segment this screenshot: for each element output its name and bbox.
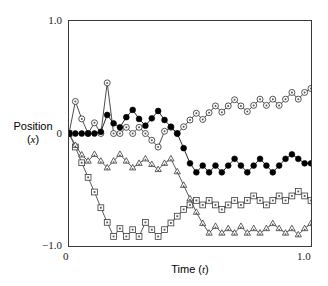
marker-center-dot bbox=[81, 162, 83, 164]
marker-center-dot bbox=[285, 233, 287, 235]
marker-center-dot bbox=[227, 204, 229, 206]
marker-center-dot bbox=[94, 154, 96, 156]
marker-center-dot bbox=[285, 200, 287, 202]
marker-center-dot bbox=[195, 212, 197, 214]
marker-center-dot bbox=[202, 204, 204, 206]
marker-filled-circle bbox=[193, 169, 199, 175]
marker-center-dot bbox=[125, 126, 127, 128]
marker-center-dot bbox=[87, 176, 89, 178]
marker-center-dot bbox=[278, 229, 280, 231]
marker-center-dot bbox=[113, 161, 115, 163]
marker-center-dot bbox=[227, 229, 229, 231]
marker-center-dot bbox=[234, 200, 236, 202]
marker-filled-circle bbox=[302, 160, 308, 166]
marker-center-dot bbox=[119, 133, 121, 135]
marker-filled-circle bbox=[276, 163, 282, 169]
marker-center-dot bbox=[214, 105, 216, 107]
marker-center-dot bbox=[221, 233, 223, 235]
marker-center-dot bbox=[157, 236, 159, 238]
marker-center-dot bbox=[291, 195, 293, 197]
x-axis-tick-left: 0 bbox=[63, 251, 69, 262]
x-axis-label: Time (t) bbox=[68, 263, 312, 275]
marker-filled-circle bbox=[270, 169, 276, 175]
marker-center-dot bbox=[183, 209, 185, 211]
marker-filled-circle bbox=[264, 163, 270, 169]
marker-center-dot bbox=[234, 233, 236, 235]
y-axis-tick-top: 1.0 bbox=[2, 15, 62, 26]
marker-center-dot bbox=[310, 200, 311, 202]
marker-center-dot bbox=[132, 229, 134, 231]
marker-filled-circle bbox=[149, 115, 155, 121]
marker-center-dot bbox=[189, 199, 191, 201]
marker-center-dot bbox=[125, 161, 127, 163]
marker-center-dot bbox=[145, 221, 147, 223]
marker-center-dot bbox=[304, 91, 306, 93]
marker-center-dot bbox=[234, 99, 236, 101]
marker-center-dot bbox=[81, 155, 83, 157]
marker-center-dot bbox=[74, 100, 76, 102]
marker-center-dot bbox=[183, 185, 185, 187]
marker-center-dot bbox=[278, 195, 280, 197]
plot-svg bbox=[69, 21, 311, 246]
marker-center-dot bbox=[240, 204, 242, 206]
marker-filled-circle bbox=[213, 163, 219, 169]
marker-center-dot bbox=[221, 209, 223, 211]
marker-center-dot bbox=[272, 98, 274, 100]
marker-center-dot bbox=[253, 195, 255, 197]
marker-center-dot bbox=[246, 111, 248, 113]
marker-center-dot bbox=[176, 172, 178, 174]
marker-center-dot bbox=[240, 226, 242, 228]
marker-center-dot bbox=[100, 207, 102, 209]
marker-center-dot bbox=[138, 163, 140, 165]
marker-center-dot bbox=[202, 118, 204, 120]
marker-filled-circle bbox=[251, 163, 257, 169]
marker-filled-circle bbox=[289, 151, 295, 157]
marker-center-dot bbox=[221, 111, 223, 113]
marker-center-dot bbox=[272, 200, 274, 202]
marker-filled-circle bbox=[238, 163, 244, 169]
marker-center-dot bbox=[259, 98, 261, 100]
marker-filled-circle bbox=[79, 131, 85, 137]
marker-filled-circle bbox=[123, 114, 129, 120]
marker-center-dot bbox=[189, 204, 191, 206]
marker-center-dot bbox=[266, 204, 268, 206]
y-axis-label-line2: (x) bbox=[2, 133, 64, 146]
marker-center-dot bbox=[195, 200, 197, 202]
marker-filled-circle bbox=[143, 123, 149, 129]
marker-filled-circle bbox=[295, 156, 301, 162]
y-axis-tick-bottom: −1.0 bbox=[2, 240, 62, 251]
marker-center-dot bbox=[145, 159, 147, 161]
marker-center-dot bbox=[304, 229, 306, 231]
marker-filled-circle bbox=[244, 169, 250, 175]
marker-center-dot bbox=[208, 233, 210, 235]
marker-filled-circle bbox=[92, 131, 98, 137]
marker-filled-circle bbox=[181, 145, 187, 151]
marker-filled-circle bbox=[200, 163, 206, 169]
marker-center-dot bbox=[87, 161, 89, 163]
marker-center-dot bbox=[81, 118, 83, 120]
marker-filled-circle bbox=[117, 124, 123, 130]
marker-filled-circle bbox=[225, 163, 231, 169]
marker-center-dot bbox=[285, 98, 287, 100]
marker-filled-circle bbox=[283, 156, 289, 162]
marker-filled-circle bbox=[136, 116, 142, 122]
marker-center-dot bbox=[93, 122, 95, 124]
marker-filled-circle bbox=[98, 129, 104, 135]
marker-filled-circle bbox=[219, 169, 225, 175]
marker-center-dot bbox=[291, 91, 293, 93]
marker-filled-circle bbox=[174, 131, 180, 137]
marker-filled-circle bbox=[104, 112, 110, 118]
marker-center-dot bbox=[151, 139, 153, 141]
marker-center-dot bbox=[266, 229, 268, 231]
figure-container: 1.0 0 −1.0 Position (x) 0 1.0 Time (t) bbox=[0, 0, 328, 286]
y-axis-label: Position (x) bbox=[2, 120, 64, 146]
marker-filled-circle bbox=[206, 169, 212, 175]
marker-center-dot bbox=[176, 215, 178, 217]
marker-filled-circle bbox=[168, 124, 174, 130]
marker-center-dot bbox=[74, 145, 76, 147]
y-axis-label-line1: Position bbox=[2, 120, 64, 133]
marker-center-dot bbox=[246, 200, 248, 202]
marker-center-dot bbox=[94, 191, 96, 193]
marker-filled-circle bbox=[187, 160, 193, 166]
marker-center-dot bbox=[113, 236, 115, 238]
